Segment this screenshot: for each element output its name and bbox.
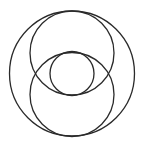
diagram-canvas <box>0 0 145 149</box>
concentric-circles-diagram <box>0 0 145 149</box>
center-circle <box>50 52 94 96</box>
outer-circle <box>10 11 135 136</box>
